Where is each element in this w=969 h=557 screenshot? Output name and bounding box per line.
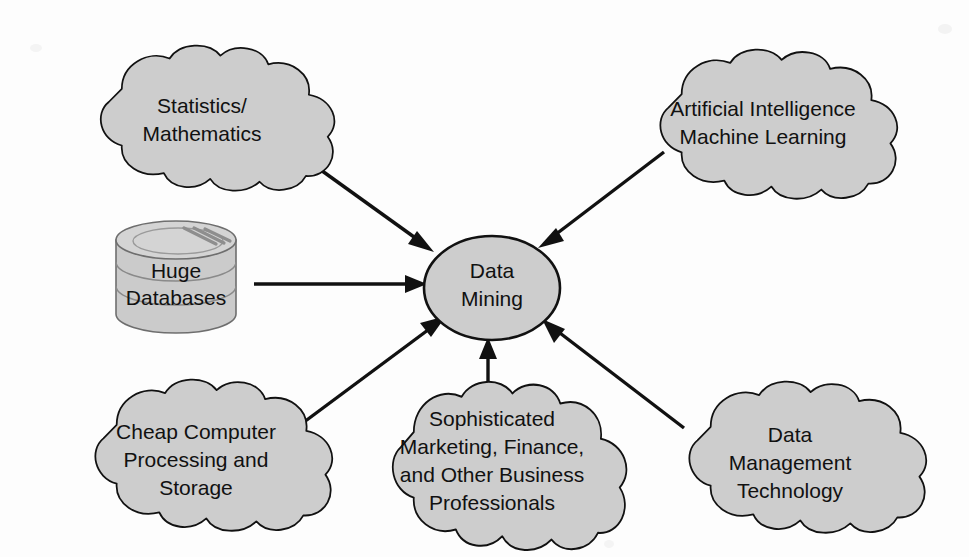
node-label-data-management-line3: Technology [737,479,844,502]
node-statistics-mathematics[interactable] [101,46,335,191]
node-label-cheap-computer-line1: Cheap Computer [116,420,276,443]
node-label-data-management-line2: Management [729,451,852,474]
node-label-professionals-line2: Marketing, Finance, [400,435,584,458]
node-label-ai-ml-line1: Artificial Intelligence [670,97,856,120]
node-label-professionals-line3: and Other Business [400,463,584,486]
node-label-statistics-mathematics-line1: Statistics/ [157,94,247,117]
node-label-cheap-computer-line2: Processing and [124,448,269,471]
edge-ai-to-data-mining [538,152,664,248]
node-label-professionals-line1: Sophisticated [429,407,555,430]
node-label-data-mining-line2: Mining [461,287,523,310]
node-label-data-mining-line1: Data [470,259,515,282]
edge-databases-to-data-mining [254,275,427,293]
node-label-ai-ml-line2: Machine Learning [680,125,847,148]
node-label-huge-databases-line1: Huge [151,259,201,282]
node-label-cheap-computer-line3: Storage [159,476,233,499]
node-label-data-management-line1: Data [768,423,813,446]
node-label-statistics-mathematics-line2: Mathematics [142,122,261,145]
node-label-huge-databases-line2: Databases [126,286,226,309]
node-label-professionals-line4: Professionals [429,491,555,514]
diagram-canvas: Statistics/ Mathematics Artificial Intel… [0,0,969,557]
data-mining-influences-diagram: Statistics/ Mathematics Artificial Intel… [0,0,969,557]
